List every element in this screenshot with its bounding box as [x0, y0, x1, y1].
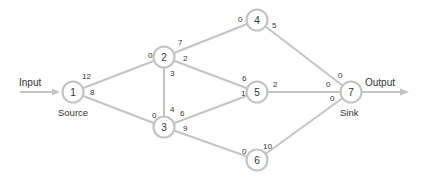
node-2: 2 — [154, 47, 175, 68]
edges — [73, 20, 351, 160]
capacity-label: 3 — [170, 69, 175, 78]
node-label: 7 — [348, 87, 354, 98]
node-label: 2 — [161, 52, 167, 63]
source-label: Source — [58, 107, 88, 118]
capacity-label: 1 — [241, 89, 246, 98]
node-label: 4 — [254, 15, 260, 26]
output-label: Output — [365, 77, 395, 88]
node-4: 4 — [247, 10, 268, 31]
input-arrow — [20, 89, 60, 96]
node-label: 5 — [254, 87, 260, 98]
capacity-label: 10 — [263, 142, 272, 151]
node-6: 6 — [247, 150, 268, 171]
capacity-label: 4 — [170, 105, 175, 114]
node-5: 5 — [247, 82, 268, 103]
capacity-label: 0 — [330, 94, 335, 103]
capacity-label: 0 — [338, 71, 343, 80]
node-label: 6 — [254, 155, 260, 166]
max-flow-network-diagram: 1234567 1280723406905612010000 Input Out… — [0, 0, 429, 185]
capacity-label: 6 — [180, 109, 185, 118]
capacity-label: 12 — [82, 72, 91, 81]
node-label: 1 — [70, 87, 76, 98]
capacity-label: 5 — [272, 21, 277, 30]
capacity-label: 6 — [242, 74, 247, 83]
capacity-label: 0 — [242, 147, 247, 156]
node-3: 3 — [154, 117, 175, 138]
capacity-label: 2 — [273, 80, 278, 89]
node-7: 7 — [341, 82, 362, 103]
capacity-label: 0 — [148, 51, 153, 60]
edge-4-7 — [257, 20, 351, 92]
capacity-labels: 1280723406905612010000 — [82, 15, 343, 156]
node-1: 1 — [63, 82, 84, 103]
capacity-label: 8 — [90, 88, 95, 97]
node-label: 3 — [161, 122, 167, 133]
output-arrow — [362, 89, 409, 96]
sink-label: Sink — [340, 107, 359, 118]
input-label: Input — [19, 77, 41, 88]
capacity-label: 7 — [178, 38, 183, 47]
capacity-label: 0 — [326, 80, 331, 89]
capacity-label: 0 — [152, 111, 157, 120]
capacity-label: 0 — [238, 15, 243, 24]
capacity-label: 9 — [183, 124, 188, 133]
capacity-label: 2 — [183, 54, 188, 63]
nodes: 1234567 — [63, 10, 362, 171]
